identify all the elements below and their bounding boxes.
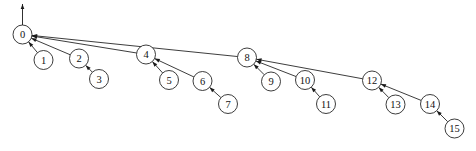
- node-7-label: 7: [225, 99, 230, 110]
- edge-8-to-0-line: [32, 35, 238, 56]
- node-4-label: 4: [143, 49, 149, 60]
- edge-5-to-4: [152, 62, 162, 73]
- node-15: 15: [445, 119, 464, 138]
- node-0-label: 0: [20, 29, 25, 40]
- root-pointer-layer: [21, 4, 25, 25]
- node-4: 4: [137, 45, 156, 64]
- node-10: 10: [296, 71, 315, 90]
- node-6-label: 6: [200, 76, 205, 87]
- node-0: 0: [13, 25, 32, 44]
- node-14-label: 14: [425, 99, 436, 110]
- edge-6-to-4-arrowhead: [155, 59, 161, 63]
- node-12: 12: [363, 71, 382, 90]
- node-8-label: 8: [244, 52, 249, 63]
- edge-11-to-10: [311, 87, 319, 97]
- root-entry-arrow: [21, 4, 25, 25]
- edge-8-to-0: [32, 34, 238, 56]
- node-11: 11: [317, 95, 336, 114]
- node-2: 2: [70, 49, 89, 68]
- node-14: 14: [421, 95, 440, 114]
- node-13: 13: [386, 95, 405, 114]
- root-entry-arrow-arrowhead: [21, 4, 25, 9]
- edge-13-to-12: [379, 87, 389, 97]
- edge-2-to-0-arrowhead: [31, 38, 37, 42]
- edge-3-to-2: [86, 65, 93, 72]
- edge-1-to-0: [29, 42, 38, 53]
- node-11-label: 11: [321, 99, 331, 110]
- node-9: 9: [262, 72, 281, 91]
- node-8: 8: [238, 48, 257, 67]
- node-3: 3: [90, 70, 109, 89]
- edge-14-to-12-arrowhead: [381, 84, 387, 88]
- node-15-label: 15: [449, 123, 460, 134]
- node-5: 5: [160, 71, 179, 90]
- node-10-label: 10: [300, 75, 311, 86]
- node-9-label: 9: [268, 76, 273, 87]
- node-6: 6: [193, 72, 212, 91]
- edge-9-to-8: [254, 64, 265, 75]
- node-3-label: 3: [96, 74, 101, 85]
- node-5-label: 5: [166, 75, 171, 86]
- edge-7-to-6: [210, 87, 221, 97]
- node-12-label: 12: [367, 75, 378, 86]
- node-1: 1: [34, 51, 53, 70]
- graph-canvas: 0123456789101112131415: [0, 0, 476, 151]
- binomial-tree-diagram: 0123456789101112131415: [0, 0, 476, 151]
- edge-15-to-14: [437, 111, 448, 122]
- nodes-layer: 0123456789101112131415: [13, 25, 464, 138]
- node-7: 7: [219, 95, 238, 114]
- node-13-label: 13: [390, 99, 401, 110]
- node-1-label: 1: [41, 55, 46, 66]
- node-2-label: 2: [76, 53, 81, 64]
